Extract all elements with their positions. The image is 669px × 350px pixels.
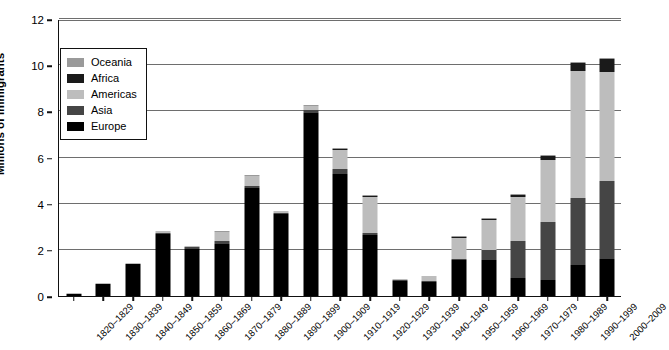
bar-segment-asia xyxy=(540,222,555,279)
y-tick-mark-8 xyxy=(47,112,52,114)
bar-segment-europe xyxy=(185,249,200,296)
bar-segment-americas xyxy=(570,71,585,198)
bar-segment-americas xyxy=(481,220,496,250)
y-tick-label-2: 2 xyxy=(38,245,44,257)
bar-segment-asia xyxy=(511,241,526,278)
bar-slot[interactable] xyxy=(355,20,385,296)
bar-slot[interactable] xyxy=(444,20,474,296)
bar-slot[interactable] xyxy=(326,20,356,296)
stacked-bar[interactable] xyxy=(600,58,615,296)
bar-segment-europe xyxy=(363,235,378,296)
y-tick-label-0: 0 xyxy=(38,291,44,303)
stacked-bar[interactable] xyxy=(185,246,200,296)
bar-slot[interactable] xyxy=(207,20,237,296)
bar-segment-africa xyxy=(600,59,615,72)
bar-segment-europe xyxy=(511,278,526,296)
y-tick-label-10: 10 xyxy=(31,60,44,72)
y-tick-mark-10 xyxy=(47,65,52,67)
stacked-bar[interactable] xyxy=(392,279,407,296)
y-tick-mark-0 xyxy=(47,296,52,298)
bar-segment-americas xyxy=(511,197,526,241)
legend-item-africa[interactable]: Africa xyxy=(67,70,137,86)
y-axis: Millions of Immigrants 024681012 xyxy=(0,20,52,297)
gridline-12 xyxy=(59,18,621,19)
stacked-bar[interactable] xyxy=(214,231,229,296)
y-tick-mark-2 xyxy=(47,250,52,252)
bar-segment-europe xyxy=(126,264,141,296)
bar-slot[interactable] xyxy=(474,20,504,296)
stacked-bar[interactable] xyxy=(126,263,141,297)
legend-swatch-icon xyxy=(67,58,84,67)
bar-slot[interactable] xyxy=(266,20,296,296)
stacked-bar[interactable] xyxy=(511,194,526,296)
y-tick-mark-6 xyxy=(47,158,52,160)
stacked-bar[interactable] xyxy=(570,62,585,296)
bar-segment-europe xyxy=(214,244,229,296)
bar-segment-asia xyxy=(600,181,615,259)
bar-slot[interactable] xyxy=(503,20,533,296)
y-tick-mark-4 xyxy=(47,204,52,206)
bar-slot[interactable] xyxy=(415,20,445,296)
stacked-bar[interactable] xyxy=(303,105,318,296)
bar-segment-americas xyxy=(452,238,467,259)
stacked-bar[interactable] xyxy=(244,175,259,296)
stacked-bar[interactable] xyxy=(333,148,348,296)
y-tick-label-12: 12 xyxy=(31,14,44,26)
bar-segment-europe xyxy=(600,259,615,296)
stacked-bar[interactable] xyxy=(274,211,289,296)
legend-label: Oceania xyxy=(91,56,132,68)
bar-slot[interactable] xyxy=(178,20,208,296)
legend-swatch-icon xyxy=(67,122,84,131)
bar-slot[interactable] xyxy=(385,20,415,296)
bar-segment-europe xyxy=(422,282,437,296)
legend-label: Americas xyxy=(91,88,137,100)
legend-item-americas[interactable]: Americas xyxy=(67,86,137,102)
legend-swatch-icon xyxy=(67,90,84,99)
bar-segment-europe xyxy=(452,260,467,296)
bar-segment-americas xyxy=(600,72,615,180)
bar-segment-americas xyxy=(333,150,348,169)
legend-label: Europe xyxy=(91,120,126,132)
stacked-bar[interactable] xyxy=(540,155,555,296)
stacked-bar[interactable] xyxy=(481,218,496,296)
y-tick-label-6: 6 xyxy=(38,153,44,165)
stacked-bar[interactable] xyxy=(155,231,170,296)
bar-slot[interactable] xyxy=(533,20,563,296)
bar-segment-europe xyxy=(392,281,407,296)
bar-slot[interactable] xyxy=(148,20,178,296)
bar-segment-europe xyxy=(570,265,585,296)
bar-segment-europe xyxy=(540,280,555,296)
legend-label: Asia xyxy=(91,104,112,116)
y-tick-label-8: 8 xyxy=(38,106,44,118)
stacked-bar[interactable] xyxy=(452,236,467,296)
legend-item-europe[interactable]: Europe xyxy=(67,118,137,134)
bar-segment-africa xyxy=(570,63,585,71)
bar-slot[interactable] xyxy=(592,20,622,296)
bar-slot[interactable] xyxy=(563,20,593,296)
bar-segment-europe xyxy=(274,214,289,296)
chart-legend: OceaniaAfricaAmericasAsiaEurope xyxy=(60,48,147,140)
bar-segment-europe xyxy=(481,260,496,296)
y-tick-mark-12 xyxy=(47,19,52,21)
y-axis-title: Millions of Immigrants xyxy=(0,53,6,175)
bar-slot[interactable] xyxy=(237,20,267,296)
bar-segment-americas xyxy=(244,176,259,186)
bar-segment-americas xyxy=(214,232,229,241)
legend-swatch-icon xyxy=(67,106,84,115)
bar-segment-europe xyxy=(96,284,111,296)
stacked-bar[interactable] xyxy=(363,195,378,296)
stacked-bar[interactable] xyxy=(422,276,437,296)
bar-segment-europe xyxy=(244,188,259,296)
legend-item-oceania[interactable]: Oceania xyxy=(67,54,137,70)
bar-segment-asia xyxy=(570,198,585,265)
bar-slot[interactable] xyxy=(296,20,326,296)
legend-swatch-icon xyxy=(67,74,84,83)
stacked-bar[interactable] xyxy=(96,283,111,296)
x-axis-labels: 1820–18291830–18391840–18491850–18591860… xyxy=(58,297,621,350)
legend-item-asia[interactable]: Asia xyxy=(67,102,137,118)
bar-segment-americas xyxy=(540,160,555,222)
bar-segment-europe xyxy=(155,234,170,296)
bar-segment-europe xyxy=(333,174,348,296)
y-tick-label-4: 4 xyxy=(38,199,44,211)
